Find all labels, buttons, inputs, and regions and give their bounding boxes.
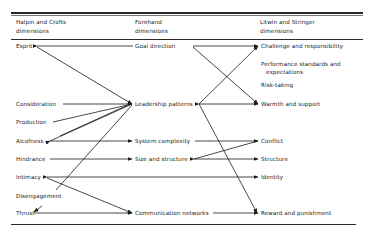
connection-lines [0,0,369,237]
line-esprit-leadership [37,47,132,104]
dimension-mapping-diagram: Halpin and Crofts dimensions Forehand di… [0,0,369,237]
